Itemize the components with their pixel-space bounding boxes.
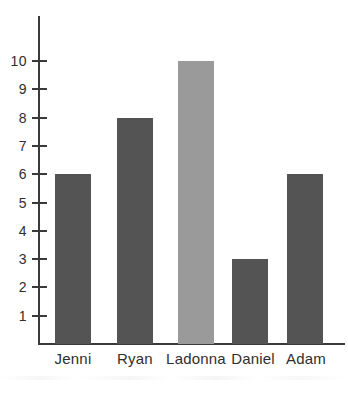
- y-axis-tick: 2: [32, 286, 47, 288]
- bar: [232, 259, 268, 344]
- y-axis-line: [38, 16, 40, 345]
- x-axis-label: Adam: [278, 351, 334, 366]
- y-axis-tick-label: 1: [19, 309, 27, 323]
- y-axis-tick-label: 8: [19, 111, 27, 125]
- y-axis-tick: 4: [32, 230, 47, 232]
- x-axis-label: Jenni: [40, 351, 106, 366]
- y-axis-tick-label: 7: [19, 139, 27, 153]
- bar: [178, 61, 214, 344]
- x-axis-label: Ryan: [104, 351, 166, 366]
- bar-rect: [178, 61, 214, 344]
- bar-rect: [117, 118, 153, 344]
- scan-noise: [0, 376, 348, 380]
- y-axis-tick-label: 5: [19, 196, 27, 210]
- y-axis-tick: 3: [32, 258, 47, 260]
- x-axis-label: Ladonna: [162, 351, 230, 366]
- bar-chart-figure: 12345678910 JenniRyanLadonnaDanielAdam: [0, 0, 348, 401]
- bar-rect: [287, 174, 323, 344]
- y-axis-tick-label: 6: [19, 167, 27, 181]
- y-axis-tick-label: 2: [19, 280, 27, 294]
- y-axis-tick-label: 10: [10, 54, 27, 68]
- bar: [117, 118, 153, 344]
- y-axis-tick: 6: [32, 173, 47, 175]
- x-axis-label: Daniel: [222, 351, 284, 366]
- bar: [55, 174, 91, 344]
- y-axis-tick: 1: [32, 315, 47, 317]
- y-axis-tick: 8: [32, 117, 47, 119]
- y-axis-tick-label: 9: [19, 82, 27, 96]
- plot-area: 12345678910 JenniRyanLadonnaDanielAdam: [0, 0, 348, 401]
- y-axis-tick-label: 3: [19, 252, 27, 266]
- y-axis-tick: 7: [32, 145, 47, 147]
- bar-rect: [55, 174, 91, 344]
- bar: [287, 174, 323, 344]
- y-axis-tick: 10: [32, 60, 47, 62]
- y-axis-tick: 9: [32, 88, 47, 90]
- y-axis-tick: 5: [32, 202, 47, 204]
- bar-rect: [232, 259, 268, 344]
- y-axis-tick-label: 4: [19, 224, 27, 238]
